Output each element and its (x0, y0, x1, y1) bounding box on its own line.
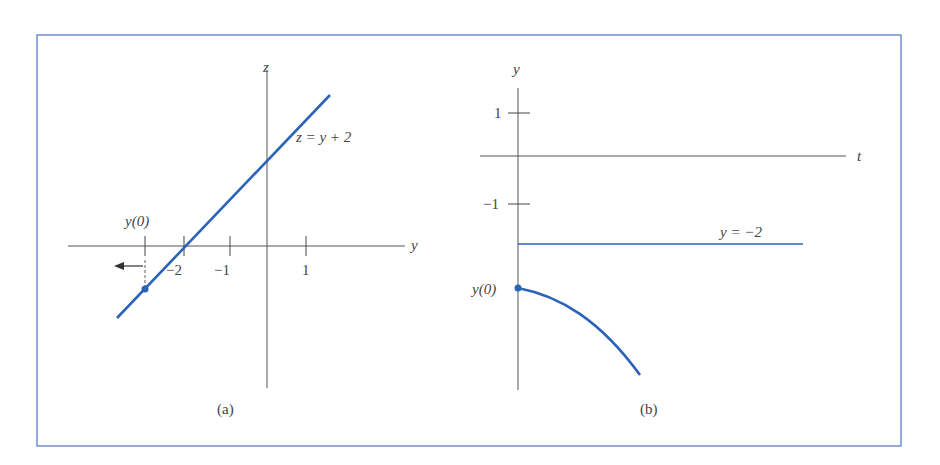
tick-label-minus1: −1 (214, 262, 230, 278)
initial-value-label-b: y(0) (470, 281, 496, 298)
arrowhead-icon (114, 262, 124, 270)
figure-frame (37, 35, 901, 446)
caption-b: (b) (640, 401, 658, 418)
equilibrium-label: y = −2 (718, 224, 762, 240)
y-axis-label-b: y (511, 61, 520, 77)
y-axis-label-a: y (409, 237, 418, 253)
tick-label-b-1: 1 (494, 105, 502, 121)
solution-curve (518, 288, 640, 375)
initial-point-b (515, 285, 522, 292)
initial-value-label-a: y(0) (123, 213, 149, 230)
caption-a: (a) (217, 401, 234, 418)
initial-point-a (142, 286, 149, 293)
tick-label-1: 1 (302, 262, 310, 278)
panel-b: y t 1 −1 y = −2 y(0) (b) (470, 61, 862, 418)
panel-a: z y −2 −1 1 z = y + 2 y(0) (a) (68, 59, 418, 418)
tick-label-b-minus1: −1 (483, 196, 499, 212)
tick-label-minus2: −2 (166, 262, 182, 278)
t-axis-label: t (857, 148, 862, 164)
figure: z y −2 −1 1 z = y + 2 y(0) (a) y t 1 −1 … (0, 0, 940, 465)
z-axis-label: z (262, 59, 269, 75)
line-equation-label: z = y + 2 (295, 129, 352, 145)
